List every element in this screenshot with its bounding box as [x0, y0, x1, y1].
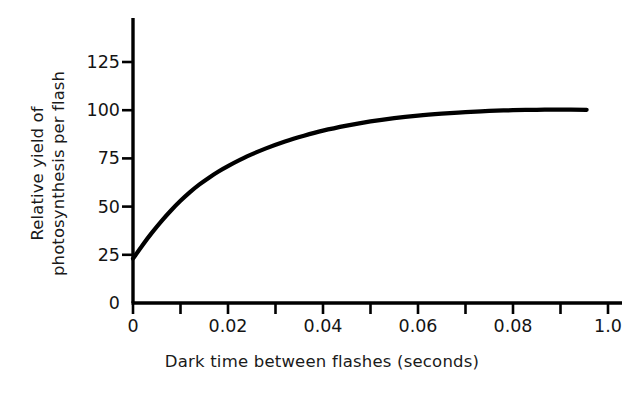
- x-axis-tick-label: 1.0: [594, 316, 622, 336]
- x-axis-tick-label: 0.04: [304, 316, 343, 336]
- chart-figure: Relative yield of photosynthesis per fla…: [0, 0, 644, 397]
- x-axis-title: Dark time between flashes (seconds): [0, 352, 644, 371]
- x-axis-tick-labels: 00.020.040.060.081.0: [0, 316, 644, 344]
- data-series-line: [133, 110, 587, 259]
- x-axis-tick-label: 0: [127, 316, 138, 336]
- x-axis-tick-label: 0.02: [209, 316, 248, 336]
- x-axis-tick-label: 0.06: [399, 316, 438, 336]
- x-axis-tick-label: 0.08: [494, 316, 533, 336]
